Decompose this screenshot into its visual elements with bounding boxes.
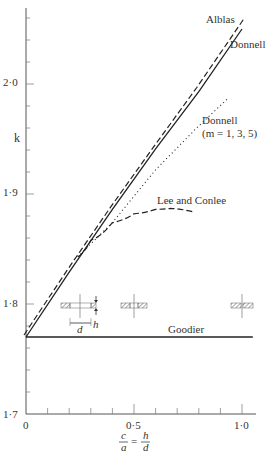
svg-text:h: h	[143, 429, 149, 441]
svg-text:=: =	[131, 435, 137, 447]
section-diagram-2	[121, 294, 147, 318]
x-ticks	[48, 404, 242, 414]
x-tick-1.0: 1·0	[234, 419, 249, 431]
chart: 1·7 1·8 1·9 2·0 0 0·5 1·0 k c a = h d Al…	[0, 0, 268, 452]
x-tick-0: 0	[23, 419, 29, 431]
label-donnell-m: Donnell	[202, 114, 237, 126]
label-donnell-m-values: (m = 1, 3, 5)	[202, 127, 257, 140]
curve-lee-and-conlee	[78, 208, 192, 256]
x-axis-label: c a = h d	[119, 429, 150, 452]
curve-donnell	[26, 29, 242, 337]
curves	[24, 18, 253, 337]
x-tick-0.5: 0·5	[126, 419, 141, 431]
y-axis-label: k	[14, 131, 20, 145]
label-alblas: Alblas	[206, 13, 235, 25]
svg-text:c: c	[121, 429, 126, 441]
section-diagram-1: d h	[61, 294, 99, 335]
y-tick-1.8: 1·8	[3, 297, 18, 309]
label-goodier: Goodier	[168, 323, 204, 335]
section-diagram-3	[231, 294, 253, 318]
label-d: d	[77, 323, 83, 335]
y-tick-1.9: 1·9	[3, 186, 18, 198]
curve-alblas	[24, 18, 244, 335]
svg-text:d: d	[143, 441, 149, 452]
svg-text:a: a	[121, 441, 127, 452]
y-tick-1.7: 1·7	[3, 408, 18, 420]
y-tick-2.0: 2·0	[3, 76, 18, 88]
label-lee-conlee: Lee and Conlee	[157, 194, 226, 206]
label-donnell: Donnell	[230, 38, 265, 50]
label-h: h	[93, 318, 99, 330]
